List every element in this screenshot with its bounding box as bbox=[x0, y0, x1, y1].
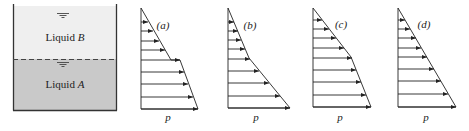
tank: Liquid B Liquid A bbox=[13, 4, 117, 111]
diagram-d-label: (d) bbox=[418, 18, 431, 31]
pressure-diagram-b bbox=[228, 8, 290, 108]
diagram-d-axis-label: p bbox=[422, 111, 429, 123]
diagram-c-label: (c) bbox=[335, 18, 348, 31]
liquid-a-label: Liquid A bbox=[46, 78, 85, 90]
liquid-b-label: Liquid B bbox=[46, 31, 85, 43]
pressure-diagram-figure: Liquid B Liquid A (a) p (b) p bbox=[0, 0, 469, 131]
diagram-a-label: (a) bbox=[157, 19, 170, 32]
diagram-b-label: (b) bbox=[244, 19, 257, 32]
diagram-b-axis-label: p bbox=[252, 111, 259, 123]
diagram-a-axis-label: p bbox=[164, 111, 171, 123]
pressure-diagram-a bbox=[141, 8, 198, 109]
diagram-c-axis-label: p bbox=[336, 111, 343, 123]
